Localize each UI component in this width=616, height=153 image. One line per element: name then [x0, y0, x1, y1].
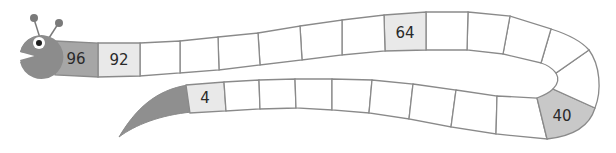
cell-top-10	[426, 12, 468, 50]
cell-top-5	[218, 33, 260, 70]
label-92: 92	[109, 51, 128, 69]
cell-bottom-3	[409, 84, 456, 127]
cell-bottom-2	[451, 90, 497, 134]
cell-bottom-7	[259, 79, 296, 109]
cell-top-11	[467, 12, 510, 54]
cell-top-7	[300, 20, 342, 60]
label-64: 64	[395, 24, 414, 42]
cell-bottom-6	[295, 79, 332, 110]
eye-pupil	[36, 40, 42, 46]
bottom-row	[186, 79, 547, 139]
antenna-right-ball	[55, 19, 63, 27]
cell-bottom-4	[369, 80, 413, 119]
label-96: 96	[66, 50, 85, 68]
snake-tail	[119, 85, 192, 137]
cell-bottom-5	[332, 79, 372, 113]
cell-top-4	[180, 37, 219, 73]
cell-top-3	[140, 41, 180, 76]
top-row	[55, 12, 551, 77]
snake-head	[20, 14, 63, 79]
counting-snake-figure: 96 92 64 40 4	[0, 0, 616, 153]
label-4: 4	[200, 89, 210, 107]
cell-top-6	[258, 26, 302, 65]
cell-top-8	[342, 15, 385, 55]
antenna-left-ball	[30, 14, 38, 22]
label-40: 40	[552, 107, 571, 125]
cell-bottom-8	[224, 80, 260, 111]
